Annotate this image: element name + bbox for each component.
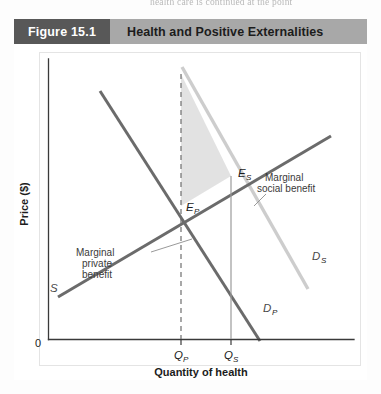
figure-title: Health and Positive Externalities [110,19,367,44]
externalities-chart: 0 Q P Q S Quantity of health Price ($) E… [14,44,367,380]
y-axis-label: Price ($) [18,182,30,226]
x-axis-label: Quantity of health [154,366,248,378]
svg-text:benefit: benefit [82,269,112,280]
annotation-marginal-social-benefit: Marginal social benefit [257,172,316,194]
svg-text:Marginal: Marginal [265,172,303,183]
leader-line-private-benefit [151,239,192,252]
svg-text:private: private [82,258,112,269]
svg-text:S: S [321,256,327,265]
xtick-label-qp: Q P [174,349,189,364]
figure-body: 0 Q P Q S Quantity of health Price ($) E… [14,44,367,380]
svg-text:P: P [272,308,278,317]
figure-page: health care is continued at the point Fi… [0,0,381,394]
xtick-label-qs: Q S [224,349,239,364]
svg-text:Q: Q [224,349,233,361]
svg-text:S: S [233,355,239,364]
curve-label-s: S [50,282,58,294]
svg-text:D: D [263,302,271,314]
running-body-text: health care is continued at the point [150,0,378,9]
svg-text:social benefit: social benefit [257,183,316,194]
svg-text:E: E [238,167,246,179]
figure-header: Figure 15.1 Health and Positive External… [14,19,367,44]
curve-label-dp: D P [263,302,278,317]
svg-text:E: E [186,201,194,213]
svg-text:P: P [194,207,200,216]
annotation-marginal-private-benefit: Marginal private benefit [76,247,114,280]
figure-number-label: Figure 15.1 [14,19,110,44]
svg-text:P: P [183,355,189,364]
point-label-ep: E P [186,201,200,216]
curve-private-demand [100,91,260,341]
svg-text:Marginal: Marginal [76,247,114,258]
svg-text:Q: Q [174,349,183,361]
curve-label-ds: D S [312,250,327,265]
svg-text:S: S [246,173,252,182]
origin-label: 0 [35,337,41,349]
svg-text:D: D [312,250,320,262]
